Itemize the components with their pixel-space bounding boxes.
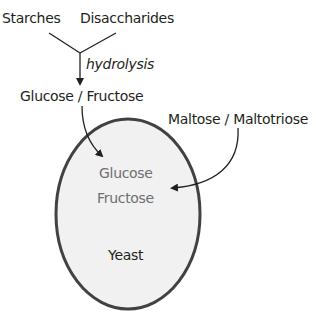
yeast-label: Yeast bbox=[108, 247, 143, 263]
hydrolysis-label: hydrolysis bbox=[86, 56, 154, 72]
disaccharides-branch-line bbox=[80, 33, 116, 53]
disaccharides-label: Disaccharides bbox=[80, 10, 174, 26]
cell-fructose-label: Fructose bbox=[97, 190, 154, 206]
cell-glucose-label: Glucose bbox=[99, 165, 153, 181]
starches-branch-line bbox=[49, 33, 80, 53]
maltose-maltotriose-label: Maltose / Maltotriose bbox=[168, 111, 308, 127]
diagram-canvas bbox=[0, 0, 316, 326]
yeast-cell bbox=[56, 119, 200, 309]
glucose-fructose-product-label: Glucose / Fructose bbox=[20, 88, 143, 104]
starches-label: Starches bbox=[2, 10, 60, 26]
